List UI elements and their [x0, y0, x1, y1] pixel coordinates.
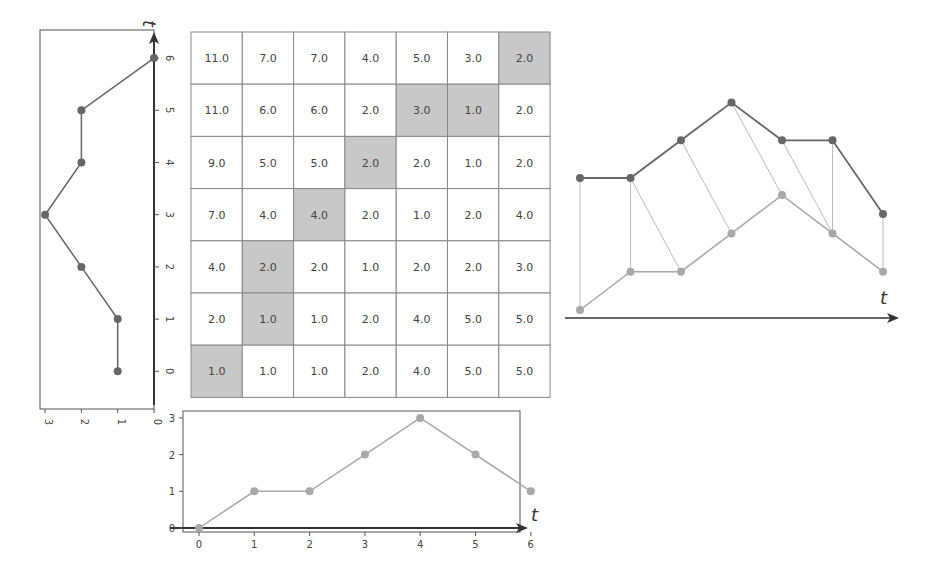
cell-value: 4.0 [413, 313, 431, 326]
cell-value: 1.0 [311, 313, 329, 326]
cell-value: 3.0 [516, 261, 534, 274]
tick-label: 1 [164, 316, 175, 322]
cell-value: 1.0 [413, 209, 431, 222]
data-point [879, 268, 887, 276]
dtw-diagram: t01234563210 11.07.07.04.05.03.02.011.06… [0, 0, 930, 588]
tick-label: 2 [164, 264, 175, 270]
data-point [778, 136, 786, 144]
cell-value: 5.0 [464, 313, 482, 326]
tick-label: 2 [169, 450, 175, 461]
cell-value: 2.0 [362, 365, 380, 378]
bottom-plot-frame [183, 411, 520, 532]
cell-value: 11.0 [204, 104, 229, 117]
data-point [879, 210, 887, 218]
data-point [677, 268, 685, 276]
cell-value: 5.0 [516, 365, 534, 378]
bottom-series-plot: t01234560123 [169, 411, 539, 550]
tick-label: 6 [164, 55, 175, 61]
data-point [114, 367, 122, 375]
tick-label: 0 [169, 523, 175, 534]
tick-label: 3 [362, 539, 368, 550]
t-label: t [531, 504, 539, 525]
cell-value: 2.0 [413, 157, 431, 170]
cell-value: 4.0 [362, 52, 380, 65]
aligned-series-plot: t [565, 99, 897, 318]
cost-matrix: 11.07.07.04.05.03.02.011.06.06.02.03.01.… [191, 32, 550, 397]
cell-value: 1.0 [464, 157, 482, 170]
data-point [306, 487, 314, 495]
data-point [77, 106, 85, 114]
cell-value: 2.0 [413, 261, 431, 274]
data-point [728, 99, 736, 107]
data-point [250, 487, 258, 495]
data-point [778, 191, 786, 199]
left-series-line [45, 58, 154, 371]
data-point [195, 524, 203, 532]
left-plot-frame [40, 30, 154, 409]
tick-label: 2 [306, 539, 312, 550]
series-a-line [580, 103, 883, 214]
data-point [150, 54, 158, 62]
tick-label: 3 [169, 413, 175, 424]
cell-value: 1.0 [464, 104, 482, 117]
data-point [114, 315, 122, 323]
cell-value: 6.0 [259, 104, 277, 117]
cell-value: 1.0 [208, 365, 226, 378]
cell-value: 1.0 [259, 313, 277, 326]
cell-value: 3.0 [413, 104, 431, 117]
left-series-plot: t01234563210 [40, 20, 175, 425]
data-point [728, 229, 736, 237]
data-point [472, 451, 480, 459]
cell-value: 4.0 [516, 209, 534, 222]
cell-value: 2.0 [208, 313, 226, 326]
cell-value: 2.0 [362, 313, 380, 326]
cell-value: 7.0 [208, 209, 226, 222]
cell-value: 1.0 [259, 365, 277, 378]
cell-value: 1.0 [362, 261, 380, 274]
tick-label: 0 [152, 419, 163, 425]
data-point [627, 268, 635, 276]
cell-value: 4.0 [208, 261, 226, 274]
cell-value: 5.0 [259, 157, 277, 170]
cell-value: 1.0 [311, 365, 329, 378]
alignment-line [732, 103, 783, 196]
tick-label: 5 [164, 107, 175, 113]
cell-value: 2.0 [516, 157, 534, 170]
data-point [829, 136, 837, 144]
data-point [416, 414, 424, 422]
cell-value: 5.0 [413, 52, 431, 65]
alignment-line [631, 178, 682, 272]
cell-value: 9.0 [208, 157, 226, 170]
cell-value: 5.0 [516, 313, 534, 326]
data-point [77, 159, 85, 167]
t-label: t [139, 20, 160, 28]
bottom-series-line [199, 418, 531, 528]
cell-value: 2.0 [311, 261, 329, 274]
cell-value: 4.0 [413, 365, 431, 378]
cell-value: 2.0 [362, 209, 380, 222]
cell-value: 6.0 [311, 104, 329, 117]
cell-value: 2.0 [362, 104, 380, 117]
data-point [576, 174, 584, 182]
cell-value: 2.0 [464, 209, 482, 222]
tick-label: 0 [196, 539, 202, 550]
tick-label: 1 [251, 539, 257, 550]
data-point [41, 211, 49, 219]
cell-value: 3.0 [464, 52, 482, 65]
tick-label: 3 [43, 419, 54, 425]
cell-value: 2.0 [516, 104, 534, 117]
data-point [576, 306, 584, 314]
cell-value: 4.0 [311, 209, 329, 222]
tick-label: 4 [417, 539, 423, 550]
alignment-line [681, 140, 732, 233]
cell-value: 2.0 [259, 261, 277, 274]
t-label: t [880, 287, 888, 308]
cell-value: 5.0 [311, 157, 329, 170]
data-point [77, 263, 85, 271]
cell-value: 7.0 [311, 52, 329, 65]
alignment-line [782, 140, 833, 233]
tick-label: 6 [528, 539, 534, 550]
tick-label: 5 [472, 539, 478, 550]
tick-label: 1 [169, 486, 175, 497]
series-b-line [580, 195, 883, 310]
